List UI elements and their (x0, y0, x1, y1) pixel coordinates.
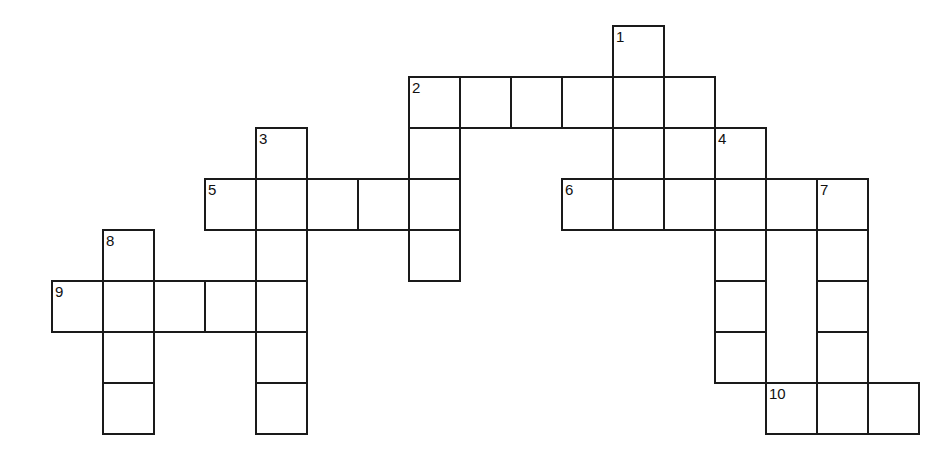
grid-cell[interactable] (612, 178, 665, 231)
grid-cell[interactable] (357, 178, 410, 231)
grid-cell[interactable] (51, 280, 104, 333)
grid-cell[interactable] (816, 382, 869, 435)
grid-cell[interactable] (612, 76, 665, 129)
grid-cell[interactable] (102, 280, 155, 333)
grid-cell[interactable] (663, 127, 716, 180)
grid-cell[interactable] (255, 178, 308, 231)
grid-cell[interactable] (102, 382, 155, 435)
grid-cell[interactable] (255, 229, 308, 282)
grid-cell[interactable] (408, 229, 461, 282)
grid-cell[interactable] (255, 127, 308, 180)
grid-cell[interactable] (102, 331, 155, 384)
crossword-grid[interactable]: 12345678910 (0, 0, 951, 466)
grid-cell[interactable] (153, 280, 206, 333)
grid-cell[interactable] (255, 382, 308, 435)
crossword-puzzle: 12345678910 (0, 0, 951, 466)
grid-cell[interactable] (867, 382, 920, 435)
grid-cell[interactable] (459, 76, 512, 129)
grid-cell[interactable] (714, 229, 767, 282)
grid-cell[interactable] (102, 229, 155, 282)
grid-cell[interactable] (714, 280, 767, 333)
grid-cell[interactable] (204, 280, 257, 333)
grid-cell[interactable] (408, 178, 461, 231)
grid-cell[interactable] (816, 178, 869, 231)
grid-cell[interactable] (663, 178, 716, 231)
grid-cell[interactable] (255, 331, 308, 384)
grid-cell[interactable] (816, 229, 869, 282)
grid-cell[interactable] (510, 76, 563, 129)
grid-cell[interactable] (663, 76, 716, 129)
grid-cell[interactable] (204, 178, 257, 231)
grid-cell[interactable] (765, 382, 818, 435)
grid-cell[interactable] (561, 178, 614, 231)
grid-cell[interactable] (255, 280, 308, 333)
grid-cell[interactable] (816, 331, 869, 384)
grid-cell[interactable] (408, 76, 461, 129)
grid-cell[interactable] (612, 25, 665, 78)
grid-cell[interactable] (561, 76, 614, 129)
grid-cell[interactable] (408, 127, 461, 180)
grid-cell[interactable] (306, 178, 359, 231)
grid-cell[interactable] (765, 178, 818, 231)
grid-cell[interactable] (612, 127, 665, 180)
grid-cell[interactable] (714, 127, 767, 180)
grid-cell[interactable] (714, 178, 767, 231)
grid-cell[interactable] (714, 331, 767, 384)
grid-cell[interactable] (816, 280, 869, 333)
